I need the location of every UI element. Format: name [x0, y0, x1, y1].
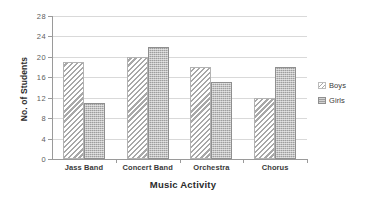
y-tick-label: 4: [41, 134, 46, 143]
bar-boys-jass-band[interactable]: [63, 62, 84, 159]
plot-area: 0481216202428 Jass BandConcert BandOrche…: [52, 16, 307, 160]
y-tick-label: 28: [37, 12, 46, 21]
x-axis-title: Music Activity: [0, 179, 366, 190]
legend-item-boys[interactable]: Boys: [318, 79, 366, 91]
bar-girls-concert-band[interactable]: [148, 47, 169, 159]
x-tick-label: Concert Band: [116, 163, 180, 172]
bar-group: Concert Band: [116, 16, 180, 159]
bar-girls-jass-band[interactable]: [84, 103, 105, 159]
bar-boys-concert-band[interactable]: [127, 57, 148, 159]
y-tick-label: 12: [37, 93, 46, 102]
y-tick-mark: [48, 159, 52, 160]
x-tick-mark: [307, 159, 308, 163]
bar-group: Chorus: [243, 16, 307, 159]
bar-boys-chorus[interactable]: [254, 98, 275, 159]
y-tick-label: 8: [41, 114, 46, 123]
y-tick-label: 16: [37, 73, 46, 82]
bar-girls-chorus[interactable]: [275, 67, 296, 159]
legend-label: Girls: [329, 96, 345, 105]
x-tick-mark: [180, 159, 181, 163]
bar-girls-orchestra[interactable]: [211, 82, 232, 159]
bar-chart: No. of Students 0481216202428 Jass BandC…: [0, 0, 366, 201]
bar-group: Jass Band: [52, 16, 116, 159]
hatch-swatch-icon: [318, 82, 326, 89]
x-tick-mark: [116, 159, 117, 163]
bar-group: Orchestra: [180, 16, 244, 159]
y-tick-label: 24: [37, 32, 46, 41]
y-tick-label: 20: [37, 52, 46, 61]
dotted-swatch-icon: [318, 97, 326, 104]
chart-legend: BoysGirls: [318, 79, 366, 109]
bar-boys-orchestra[interactable]: [190, 67, 211, 159]
x-tick-mark: [243, 159, 244, 163]
x-tick-label: Jass Band: [52, 163, 116, 172]
y-tick-label: 0: [41, 155, 46, 164]
legend-label: Boys: [329, 81, 346, 90]
x-tick-label: Orchestra: [180, 163, 244, 172]
y-axis-title: No. of Students: [19, 29, 29, 149]
x-tick-label: Chorus: [243, 163, 307, 172]
legend-item-girls[interactable]: Girls: [318, 94, 366, 106]
